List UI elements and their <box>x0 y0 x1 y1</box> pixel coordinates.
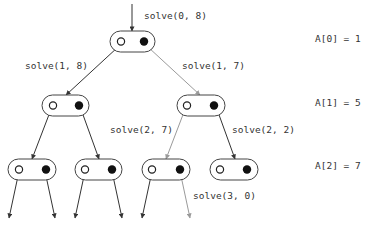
open-circle-icon <box>148 166 155 173</box>
filled-circle-icon <box>210 101 218 109</box>
edge-arrow <box>66 47 118 95</box>
open-circle-icon <box>81 166 88 173</box>
filled-circle-icon <box>140 37 148 45</box>
edge-arrow <box>148 47 200 95</box>
recursion-tree-diagram: solve(0, 8) solve(1, 8)solve(1, 7)solve(… <box>0 0 372 232</box>
open-circle-icon <box>15 166 22 173</box>
edge-arrow <box>218 112 235 159</box>
edge-call-label: solve(2, 2) <box>232 124 295 135</box>
array-value-label: A[1] = 5 <box>315 97 361 108</box>
node-pill <box>110 31 155 52</box>
array-value-label: A[0] = 1 <box>315 33 361 44</box>
edge-arrow <box>181 176 190 218</box>
edge-call-label: solve(1, 7) <box>182 60 245 71</box>
filled-circle-icon <box>75 101 83 109</box>
edge-arrow <box>142 176 151 218</box>
edge-arrow <box>32 112 50 159</box>
open-circle-icon <box>183 102 190 109</box>
array-value-label: A[2] = 7 <box>315 160 361 171</box>
edge-arrow <box>9 176 18 218</box>
open-circle-icon <box>49 102 56 109</box>
edge-call-label: solve(2, 7) <box>110 124 173 135</box>
edge-call-label: solve(1, 8) <box>25 60 88 71</box>
tree-node <box>75 159 122 180</box>
nodes-layer <box>8 31 258 180</box>
filled-circle-icon <box>243 165 251 173</box>
open-circle-icon <box>216 166 223 173</box>
filled-circle-icon <box>42 165 50 173</box>
root-call-label: solve(0, 8) <box>144 10 207 21</box>
filled-circle-icon <box>176 165 184 173</box>
edge-arrow <box>82 112 99 159</box>
tree-node <box>210 159 258 180</box>
edge-arrow <box>113 176 122 218</box>
tree-node <box>110 31 155 52</box>
edge-arrow <box>75 176 84 218</box>
tree-node <box>142 159 190 180</box>
tree-node <box>8 159 56 180</box>
edge-arrow <box>46 176 55 218</box>
filled-circle-icon <box>108 165 116 173</box>
open-circle-icon <box>117 38 124 45</box>
tree-node <box>177 95 225 116</box>
edge-call-label: solve(3, 0) <box>193 190 256 201</box>
edge-arrow <box>166 112 184 159</box>
tree-node <box>42 95 89 116</box>
